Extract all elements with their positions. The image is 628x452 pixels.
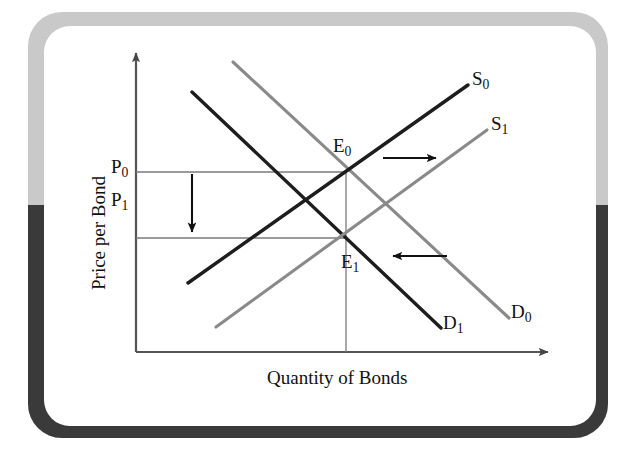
curve-label-d0-sub: 0: [525, 310, 532, 325]
price-label-p1-base: P: [111, 189, 122, 210]
equilibrium-label-e0: E0: [333, 136, 351, 159]
curve-s1: [216, 130, 487, 327]
curve-label-d1-base: D: [443, 312, 457, 333]
curve-label-d0: D0: [511, 302, 532, 325]
equilibrium-label-e1-sub: 1: [353, 260, 360, 275]
curve-label-s1: S1: [491, 114, 508, 137]
y-axis-title: Price per Bond: [88, 176, 110, 290]
curve-d1: [192, 92, 441, 328]
equilibrium-label-e0-base: E: [333, 135, 345, 156]
equilibrium-label-e0-sub: 0: [345, 144, 352, 159]
equilibrium-label-e1-base: E: [341, 251, 353, 272]
curve-label-d0-base: D: [511, 301, 525, 322]
curve-d0: [233, 62, 509, 318]
equilibrium-label-e1: E1: [341, 252, 359, 275]
curve-label-s1-sub: 1: [502, 122, 509, 137]
price-label-p0: P0: [111, 157, 128, 180]
price-label-p0-sub: 0: [122, 165, 129, 180]
curve-label-s0: S0: [472, 69, 489, 92]
x-axis-title: Quantity of Bonds: [267, 368, 407, 387]
price-label-p0-base: P: [111, 156, 122, 177]
curve-label-s1-base: S: [491, 113, 502, 134]
curve-label-s0-base: S: [472, 68, 483, 89]
figure-root: Price per Bond Quantity of Bonds P0 P1 E…: [0, 0, 628, 452]
price-label-p1: P1: [111, 190, 128, 213]
curve-label-d1: D1: [443, 313, 464, 336]
curve-s0: [188, 85, 468, 283]
price-label-p1-sub: 1: [122, 198, 129, 213]
curve-label-s0-sub: 0: [483, 77, 490, 92]
curve-label-d1-sub: 1: [457, 321, 464, 336]
